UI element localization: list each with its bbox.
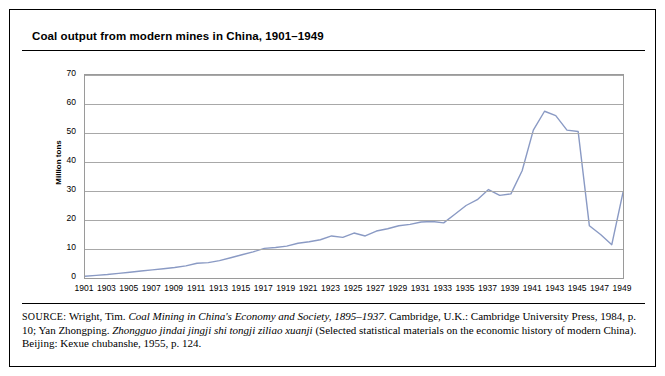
source-italic-2: Zhongguo jindai jingji shi tongji ziliao…	[112, 324, 312, 336]
chart-line-svg	[85, 75, 623, 278]
gridline	[85, 220, 623, 221]
y-tick-label: 40	[32, 155, 76, 165]
source-text-4: (Selected statistical materials on the e…	[313, 324, 637, 336]
gridline	[85, 249, 623, 250]
y-tick-label: 50	[32, 126, 76, 136]
source-label: SOURCE:	[22, 311, 66, 322]
y-tick-label: 0	[32, 271, 76, 281]
gridline	[85, 191, 623, 192]
source-note: SOURCE: Wright, Tim. Coal Mining in Chin…	[22, 310, 646, 351]
y-tick-label: 10	[32, 242, 76, 252]
figure-frame: Coal output from modern mines in China, …	[9, 9, 656, 367]
chart-title: Coal output from modern mines in China, …	[32, 30, 324, 42]
source-text-5: Beijing: Kexue chubanshe, 1955, p. 124.	[22, 337, 201, 349]
x-tick-label: 1949	[609, 283, 635, 293]
y-tick-label: 70	[32, 68, 76, 78]
gridline	[85, 75, 623, 76]
source-text-3: Yan Zhongping.	[38, 324, 112, 336]
title-divider	[22, 50, 645, 51]
axis-box	[84, 74, 624, 279]
y-tick-label: 60	[32, 97, 76, 107]
gridline	[85, 133, 623, 134]
source-italic-1: Coal Mining in China's Economy and Socie…	[128, 310, 383, 322]
gridline	[85, 162, 623, 163]
source-text-1: Wright, Tim.	[69, 310, 128, 322]
page-root: Coal output from modern mines in China, …	[0, 0, 665, 376]
series-line	[85, 111, 623, 276]
x-tick-labels: 1901190319051907190919111913191519171919…	[84, 281, 624, 299]
gridline	[85, 104, 623, 105]
plot-area: Million tons 010203040506070 19011903190…	[32, 68, 636, 300]
y-tick-label: 30	[32, 184, 76, 194]
y-tick-label: 20	[32, 213, 76, 223]
source-divider	[22, 303, 645, 304]
